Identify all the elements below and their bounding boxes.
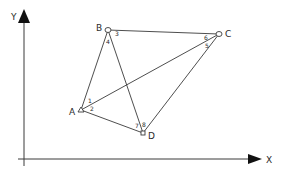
geometry-diagram: Y X A B C D 1 2 3 4 5 6 7 8 (0, 0, 290, 172)
point-b-label: B (96, 23, 102, 33)
angle-label-8: 8 (142, 121, 146, 128)
point-markers (78, 28, 222, 136)
x-axis-arrow-icon (248, 154, 262, 164)
angle-label-6: 6 (204, 34, 208, 41)
angle-label-5: 5 (205, 42, 209, 49)
point-c-label: C (225, 29, 231, 39)
edge-b-d (108, 30, 143, 133)
point-b-circle-icon (105, 28, 111, 33)
edge-a-c (81, 34, 219, 110)
point-d-label: D (148, 131, 155, 141)
angle-label-3: 3 (115, 30, 119, 37)
edges (81, 30, 219, 133)
edge-a-b (81, 30, 108, 110)
point-d-square-icon (141, 131, 145, 135)
angle-label-2: 2 (90, 105, 94, 112)
angle-label-1: 1 (88, 97, 92, 104)
angle-label-4: 4 (106, 38, 110, 45)
y-axis-label: Y (10, 12, 17, 22)
edge-a-d (81, 110, 143, 133)
edge-b-c (108, 30, 219, 34)
angle-label-7: 7 (135, 122, 139, 129)
point-c-circle-icon (216, 32, 222, 37)
point-a-label: A (69, 107, 76, 117)
y-axis-arrow-icon (18, 9, 30, 23)
point-a-triangle-icon (78, 107, 84, 112)
x-axis-label: X (266, 155, 272, 165)
